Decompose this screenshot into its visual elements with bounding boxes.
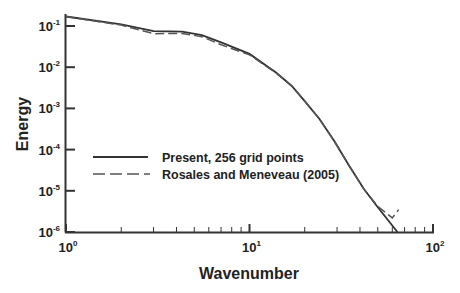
legend-label-present: Present, 256 grid points xyxy=(162,151,304,165)
tick-label: 10-6 xyxy=(38,224,60,240)
tick-label: 10-5 xyxy=(38,183,60,199)
tick-label: 102 xyxy=(426,239,445,255)
energy-spectrum-chart: 10-110-210-310-410-510-6 100101102 Prese… xyxy=(0,0,460,293)
tick-label: 100 xyxy=(59,239,78,255)
tick-label: 10-1 xyxy=(38,18,60,34)
y-axis-title: Energy xyxy=(14,97,31,151)
tick-label: 10-3 xyxy=(38,100,60,116)
x-axis-title: Wavenumber xyxy=(199,265,299,282)
tick-label: 101 xyxy=(242,239,261,255)
x-tick-labels: 100101102 xyxy=(59,239,445,255)
y-tick-labels: 10-110-210-310-410-510-6 xyxy=(38,18,60,240)
legend: Present, 256 grid points Rosales and Men… xyxy=(93,151,339,182)
tick-label: 10-2 xyxy=(38,59,60,75)
tick-label: 10-4 xyxy=(38,142,60,158)
legend-label-rosales: Rosales and Meneveau (2005) xyxy=(162,168,339,182)
axis-ticks xyxy=(65,26,433,232)
